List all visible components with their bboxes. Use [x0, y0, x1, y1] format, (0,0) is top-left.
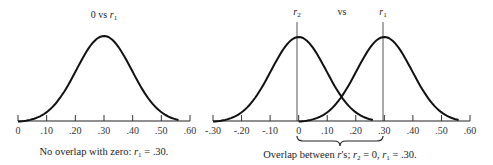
tick-label: -.20: [234, 125, 250, 136]
right-caption: Overlap between r's; r2 = 0, r1 = .30.: [263, 149, 416, 162]
tick-label: 0: [16, 125, 21, 136]
right-r1-curve: [299, 37, 459, 122]
tick-label: .30: [378, 125, 391, 136]
tick-label: .50: [435, 125, 448, 136]
tick-label: .30: [98, 125, 111, 136]
right-tick-marks: [213, 115, 470, 121]
tick-label: .60: [464, 125, 477, 136]
r1-label: r1: [379, 6, 387, 19]
tick-label: .50: [155, 125, 168, 136]
overlap-brace: [297, 136, 383, 146]
tick-label: .10: [40, 125, 53, 136]
right-tick-labels: -.30-.20-.100.10.20.30.40.50.60: [205, 125, 476, 136]
figure: 0 vs r1 0.10.20.30.40.50.60 No overlap w…: [0, 0, 493, 165]
tick-label: 0: [296, 125, 301, 136]
left-r1-curve: [18, 36, 179, 122]
left-tick-marks: [18, 115, 190, 121]
right-r2-curve: [213, 37, 373, 122]
tick-label: .10: [321, 125, 334, 136]
tick-label: -.10: [262, 125, 278, 136]
tick-label: .20: [350, 125, 363, 136]
r2-label: r2: [293, 6, 301, 19]
left-chart: 0 vs r1 0.10.20.30.40.50.60 No overlap w…: [16, 9, 197, 159]
right-chart: r2 vs r1 -.30-.20-.100.10.20.30.40.50.60…: [205, 6, 476, 162]
left-caption: No overlap with zero: r1 = .30.: [40, 146, 169, 159]
tick-label: .20: [69, 125, 82, 136]
left-tick-labels: 0.10.20.30.40.50.60: [16, 125, 197, 136]
tick-label: .40: [407, 125, 420, 136]
left-chart-title: 0 vs r1: [91, 9, 118, 22]
tick-label: -.30: [205, 125, 221, 136]
vs-label: vs: [338, 6, 347, 17]
tick-label: .60: [184, 125, 197, 136]
tick-label: .40: [126, 125, 139, 136]
